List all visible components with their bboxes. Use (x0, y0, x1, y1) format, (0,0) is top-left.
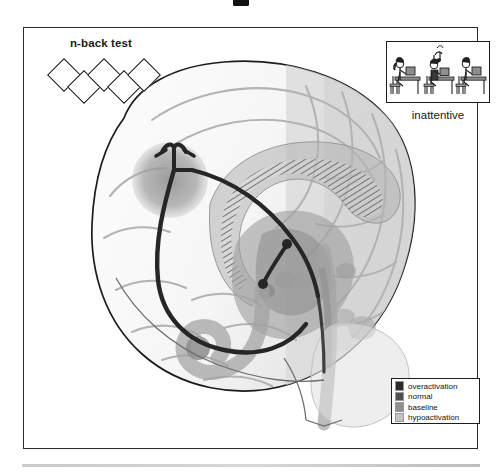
legend-swatch-normal (395, 392, 404, 402)
bottom-separator-rule (22, 464, 480, 467)
legend-swatch-baseline (395, 402, 404, 412)
clipped-glyph-top (233, 0, 249, 6)
legend-item: normal (395, 392, 477, 402)
nback-diamond-sequence (48, 57, 178, 117)
legend-label: overactivation (408, 382, 457, 391)
legend-swatch-hypoactivation (395, 413, 404, 423)
legend-label: baseline (408, 403, 438, 412)
legend-item: overactivation (395, 381, 477, 391)
nback-test-label: n-back test (70, 37, 132, 49)
nback-test-block: n-back test (48, 37, 178, 122)
legend-label: hypoactivation (408, 413, 459, 422)
inattentive-caption: inattentive (386, 109, 490, 121)
figure-root: n-back test (0, 0, 501, 473)
figure-panel: n-back test (23, 27, 478, 449)
legend-item: hypoactivation (395, 413, 477, 423)
legend-swatch-overactivation (395, 381, 404, 391)
inattentive-block: inattentive (386, 41, 498, 146)
activation-legend: overactivation normal baseline hypoactiv… (391, 378, 480, 424)
legend-label: normal (408, 392, 432, 401)
inattentive-scene-frame (386, 41, 490, 103)
classroom-scene (387, 42, 488, 101)
legend-item: baseline (395, 402, 477, 412)
